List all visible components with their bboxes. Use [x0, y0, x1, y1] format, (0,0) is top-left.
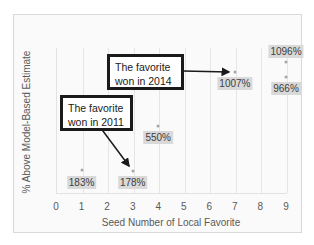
annotation-text: won in 2011 — [68, 115, 125, 129]
annotation-arrows — [0, 0, 314, 245]
annotation-text: The favorite — [115, 60, 176, 74]
annotation-text: won in 2014 — [115, 74, 176, 88]
annotation-text: The favorite — [68, 101, 125, 115]
annotation-2014: The favorite won in 2014 — [107, 54, 184, 90]
annotation-2011: The favorite won in 2011 — [60, 95, 133, 131]
